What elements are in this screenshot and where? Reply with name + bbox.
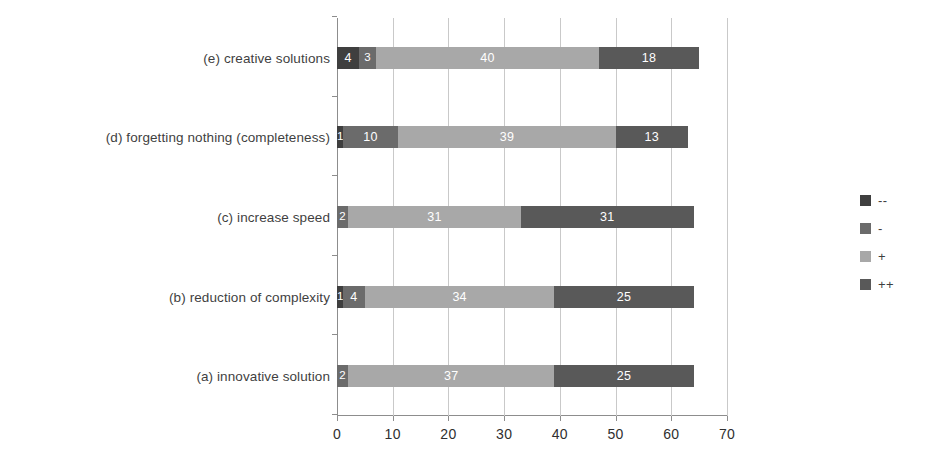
- bar-row: 1103913: [337, 126, 688, 148]
- bar-segment: 4: [343, 286, 365, 308]
- bar-row: 23131: [337, 206, 694, 228]
- x-tick-label: 30: [496, 426, 512, 442]
- legend: ---+++: [860, 186, 920, 298]
- plot-area: 0102030405060702372514342523131110391343…: [337, 18, 727, 416]
- x-axis-tick: [337, 416, 338, 421]
- x-axis-tick: [671, 416, 672, 421]
- y-axis-tick: [332, 255, 337, 256]
- legend-swatch: [860, 223, 871, 234]
- bar-segment: 25: [554, 365, 693, 387]
- y-axis-tick: [332, 334, 337, 335]
- bar-value-label: 10: [343, 131, 399, 144]
- x-axis-line: [337, 415, 727, 416]
- legend-label: ++: [878, 278, 894, 291]
- x-axis-tick: [504, 416, 505, 421]
- bar-segment: 37: [348, 365, 554, 387]
- bar-value-label: 4: [337, 52, 359, 65]
- x-tick-label: 70: [719, 426, 735, 442]
- y-axis-tick: [332, 414, 337, 415]
- x-tick-label: 0: [333, 426, 341, 442]
- bar-row: 143425: [337, 286, 694, 308]
- category-label: (e) creative solutions: [203, 50, 330, 65]
- bar-value-label: 2: [337, 211, 348, 223]
- bar-segment: 2: [337, 206, 348, 228]
- category-label: (b) reduction of complexity: [169, 289, 330, 304]
- bar-value-label: 4: [343, 290, 365, 303]
- legend-item: -: [860, 214, 920, 242]
- bar-value-label: 37: [348, 370, 554, 383]
- gridline: [727, 18, 728, 416]
- legend-label: --: [878, 194, 888, 207]
- bar-value-label: 40: [376, 52, 599, 65]
- legend-label: -: [878, 222, 883, 235]
- legend-swatch: [860, 195, 871, 206]
- bar-segment: 18: [599, 47, 699, 69]
- bar-segment: 31: [521, 206, 694, 228]
- x-axis-tick: [727, 416, 728, 421]
- category-axis: (a) innovative solution(b) reduction of …: [0, 0, 330, 461]
- x-axis-tick: [616, 416, 617, 421]
- legend-swatch: [860, 279, 871, 290]
- legend-item: --: [860, 186, 920, 214]
- category-label: (c) increase speed: [217, 210, 330, 225]
- bar-segment: 31: [348, 206, 521, 228]
- bar-value-label: 31: [521, 211, 694, 224]
- stacked-bar-chart: (a) innovative solution(b) reduction of …: [0, 0, 925, 461]
- x-tick-label: 10: [385, 426, 401, 442]
- bar-value-label: 25: [554, 370, 693, 383]
- bar-row: 23725: [337, 365, 694, 387]
- bar-segment: 13: [616, 126, 688, 148]
- x-tick-label: 50: [607, 426, 623, 442]
- x-axis-tick: [448, 416, 449, 421]
- x-axis-tick: [560, 416, 561, 421]
- legend-item: +: [860, 242, 920, 270]
- y-axis-tick: [332, 16, 337, 17]
- bar-value-label: 39: [398, 131, 615, 144]
- y-axis-tick: [332, 96, 337, 97]
- x-tick-label: 20: [440, 426, 456, 442]
- bar-segment: 3: [359, 47, 376, 69]
- bar-value-label: 3: [359, 52, 376, 64]
- legend-label: +: [878, 250, 886, 263]
- category-label: (d) forgetting nothing (completeness): [106, 130, 330, 145]
- bar-segment: 2: [337, 365, 348, 387]
- bar-segment: 10: [343, 126, 399, 148]
- bar-value-label: 34: [365, 290, 554, 303]
- bar-segment: 25: [554, 286, 693, 308]
- x-tick-label: 60: [663, 426, 679, 442]
- bar-value-label: 13: [616, 131, 688, 144]
- bar-value-label: 2: [337, 370, 348, 382]
- bar-segment: 4: [337, 47, 359, 69]
- x-axis-tick: [393, 416, 394, 421]
- legend-item: ++: [860, 270, 920, 298]
- bar-segment: 40: [376, 47, 599, 69]
- bar-row: 434018: [337, 47, 699, 69]
- x-tick-label: 40: [552, 426, 568, 442]
- y-axis-tick: [332, 175, 337, 176]
- bar-value-label: 18: [599, 52, 699, 65]
- bar-value-label: 25: [554, 290, 693, 303]
- legend-swatch: [860, 251, 871, 262]
- bar-segment: 39: [398, 126, 615, 148]
- category-label: (a) innovative solution: [196, 369, 330, 384]
- bar-segment: 34: [365, 286, 554, 308]
- bar-value-label: 31: [348, 211, 521, 224]
